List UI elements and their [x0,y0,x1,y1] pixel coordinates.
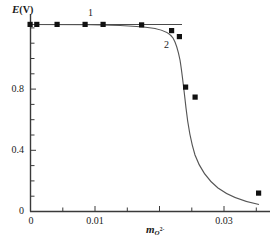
data-point [55,22,60,27]
series-line-2 [30,25,259,205]
data-point [34,22,39,27]
x-axis-title: mO2- [146,224,164,237]
x-axis-superscript: 2- [160,226,165,232]
data-point [28,22,33,27]
data-point [139,22,144,27]
data-point [83,22,88,27]
data-point [183,85,188,90]
data-point [169,28,174,33]
curve-label-1: 1 [88,8,93,18]
x-tick-label: 0.01 [80,216,110,226]
chart-canvas [0,0,276,246]
data-point [256,191,261,196]
data-point [101,22,106,27]
y-tick-label: 0.8 [2,84,24,94]
y-tick-label: 0.4 [2,145,24,155]
curve-label-2: 2 [164,40,169,50]
y-axis-unit: (V) [19,4,33,15]
x-axis-ticks [31,206,257,212]
y-tick-label: 0 [2,206,24,216]
data-point-markers [28,22,262,196]
x-tick-label: 0.03 [209,216,239,226]
y-axis-title: E(V) [12,4,33,15]
y-axis-ticks [31,28,37,212]
x-tick-label: 0 [16,216,46,226]
figure-container: E(V) mO2- 0 0.4 0.8 0 0.01 0.03 1 2 [0,0,276,246]
x-axis-symbol: m [146,223,155,235]
data-point [177,34,182,39]
data-point [193,95,198,100]
